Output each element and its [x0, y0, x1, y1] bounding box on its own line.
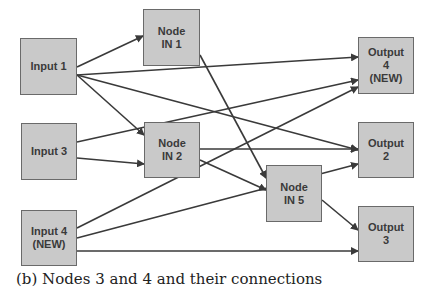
figure-caption: (b) Nodes 3 and 4 and their connections: [16, 270, 322, 288]
node-hidden-in-2: Node IN 2: [144, 122, 200, 178]
node-output-2: Output 2: [358, 122, 414, 178]
node-input-4-new: Input 4 (NEW): [21, 210, 77, 266]
edge-arrow: [200, 160, 266, 190]
edge-arrow: [322, 200, 358, 230]
node-input-3: Input 3: [21, 123, 77, 180]
node-output-4-new: Output 4 (NEW): [358, 37, 414, 94]
edge-arrow: [77, 57, 358, 75]
node-hidden-in-1: Node IN 1: [143, 9, 200, 66]
node-output-3: Output 3: [358, 206, 414, 262]
node-hidden-in-5: Node IN 5: [266, 165, 322, 222]
edge-arrow: [77, 36, 143, 67]
edge-arrow: [77, 158, 144, 164]
edge-arrow: [200, 55, 266, 178]
node-input-1: Input 1: [20, 38, 77, 95]
